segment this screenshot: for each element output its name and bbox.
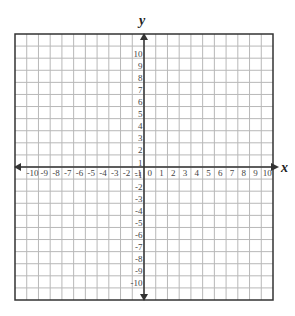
y-tick-label: -9: [135, 266, 143, 276]
coordinate-plane: -10-9-8-7-6-5-4-3-2-1012345678910 109876…: [0, 0, 295, 316]
y-tick-label: 9: [138, 61, 143, 71]
y-tick-label: 6: [138, 97, 143, 107]
y-tick-label: -8: [135, 254, 143, 264]
x-tick-label: 8: [241, 168, 246, 178]
x-tick-label: -5: [87, 168, 95, 178]
y-tick-label: 4: [138, 121, 143, 131]
axes: [14, 33, 279, 301]
x-tick-label: -10: [27, 168, 39, 178]
x-tick-label: -9: [41, 168, 49, 178]
y-tick-label: 3: [138, 133, 143, 143]
y-tick-label: -5: [135, 218, 143, 228]
x-tick-label: 9: [253, 168, 258, 178]
x-tick-label: 4: [195, 168, 200, 178]
x-tick-label: 10: [263, 168, 273, 178]
x-tick-label: 1: [159, 168, 164, 178]
y-tick-label: 7: [138, 85, 143, 95]
x-axis-tick-labels: -10-9-8-7-6-5-4-3-2-1012345678910: [27, 168, 273, 178]
x-tick-label: 2: [171, 168, 176, 178]
x-tick-label: 5: [206, 168, 211, 178]
x-tick-label: -4: [99, 168, 107, 178]
y-tick-label: -10: [131, 278, 143, 288]
x-axis-title: x: [280, 160, 288, 175]
y-tick-label: 8: [138, 73, 143, 83]
x-tick-label: 6: [218, 168, 223, 178]
x-tick-label: -7: [64, 168, 72, 178]
y-tick-label: -2: [135, 182, 143, 192]
x-tick-label: -2: [123, 168, 131, 178]
y-tick-label: -1: [135, 170, 143, 180]
y-tick-label: 1: [138, 158, 143, 168]
x-axis-right-arrow-icon: [271, 163, 279, 171]
y-tick-label: -4: [135, 206, 143, 216]
x-tick-label: -3: [111, 168, 119, 178]
x-tick-label: -6: [76, 168, 84, 178]
x-tick-label: 0: [148, 168, 153, 178]
y-axis-title: y: [137, 13, 146, 28]
y-tick-label: -7: [135, 242, 143, 252]
y-tick-label: 5: [138, 109, 143, 119]
y-tick-label: -3: [135, 194, 143, 204]
x-tick-label: 7: [230, 168, 235, 178]
x-tick-label: 3: [183, 168, 188, 178]
y-tick-label: 2: [138, 145, 143, 155]
y-tick-label: 10: [134, 49, 144, 59]
y-tick-label: -6: [135, 230, 143, 240]
x-tick-label: -8: [52, 168, 60, 178]
